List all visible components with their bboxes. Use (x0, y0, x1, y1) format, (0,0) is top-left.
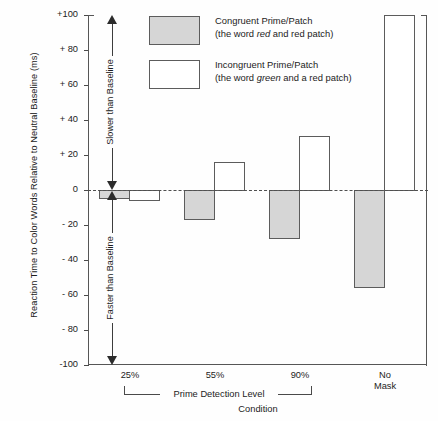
legend-congruent-pre: (the word (215, 28, 257, 39)
bar-congruent-90[interactable] (269, 190, 300, 239)
bar-incongruent-55[interactable] (214, 162, 245, 191)
bar-incongruent-90[interactable] (299, 136, 330, 191)
bar-incongruent-25[interactable] (129, 190, 160, 201)
x-tick-label-25: 25% (104, 370, 156, 381)
prime-detection-level-label: Prime Detection Level (160, 389, 278, 399)
x-axis-title: Condition (88, 404, 428, 414)
x-tick-label-90: 90% (274, 370, 326, 381)
faster-than-baseline-label: Faster than Baseline (105, 163, 115, 393)
chart-legend: Congruent Prime/Patch (the word red and … (149, 14, 389, 102)
legend-item-congruent[interactable]: Congruent Prime/Patch (the word red and … (149, 14, 389, 58)
legend-text-congruent: Congruent Prime/Patch (the word red and … (215, 15, 333, 40)
incongruent-swatch-icon (149, 60, 200, 89)
zero-baseline (88, 190, 428, 191)
x-tick-label-nomask-line1: No (359, 370, 411, 381)
bar-congruent-55[interactable] (184, 190, 215, 220)
legend-incongruent-post: and a red patch) (281, 72, 352, 83)
x-tick-label-nomask: No Mask (359, 370, 411, 392)
x-tick-label-nomask-line2: Mask (359, 381, 411, 392)
legend-congruent-em: red (257, 28, 271, 39)
faster-label-text: Faster than Baseline (104, 233, 116, 322)
legend-incongruent-pre: (the word (215, 72, 257, 83)
legend-congruent-line1: Congruent Prime/Patch (215, 15, 333, 28)
legend-incongruent-em: green (257, 72, 281, 83)
legend-congruent-post: and red patch) (270, 28, 333, 39)
chart-figure: Reaction Time to Color Words Relative to… (0, 0, 438, 421)
x-tick-label-55: 55% (189, 370, 241, 381)
legend-incongruent-line2: (the word green and a red patch) (215, 72, 352, 85)
legend-item-incongruent[interactable]: Incongruent Prime/Patch (the word green … (149, 58, 389, 102)
slower-label-text: Slower than Baseline (104, 56, 116, 147)
legend-incongruent-line1: Incongruent Prime/Patch (215, 59, 352, 72)
legend-text-incongruent: Incongruent Prime/Patch (the word green … (215, 59, 352, 84)
congruent-swatch-icon (149, 16, 200, 45)
legend-congruent-line2: (the word red and red patch) (215, 28, 333, 41)
bar-congruent-nomask[interactable] (354, 190, 385, 288)
